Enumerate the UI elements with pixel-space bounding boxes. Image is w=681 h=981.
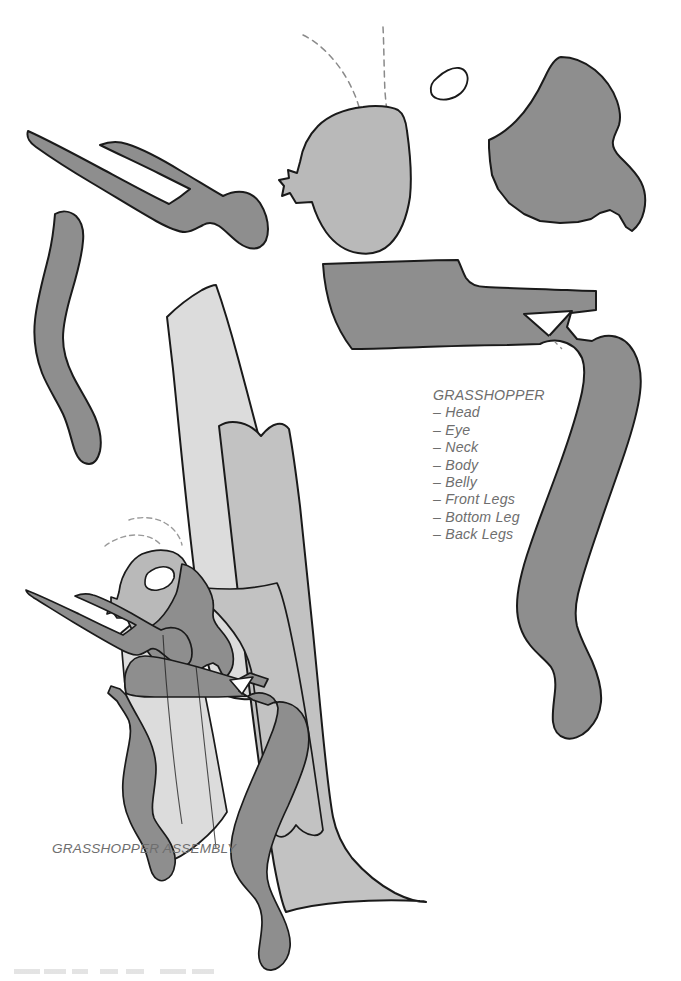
piece-head: [279, 106, 411, 254]
legend-item-eye: – Eye: [433, 422, 545, 439]
legend-item-belly: – Belly: [433, 474, 545, 491]
legend-title: GRASSHOPPER: [433, 387, 545, 404]
pattern-sheet: GRASSHOPPER – Head – Eye – Neck – Body –…: [0, 0, 681, 981]
piece-bottom-leg: [34, 212, 100, 464]
legend-item-bottom-leg: – Bottom Leg: [433, 509, 545, 526]
piece-eye: [431, 68, 468, 100]
antenna-left-icon: [303, 35, 362, 120]
assembly-antenna-left-icon: [105, 535, 161, 546]
assembly-caption: GRASSHOPPER ASSEMBLY: [52, 841, 236, 856]
legend-item-body: – Body: [433, 457, 545, 474]
assembly-antennae: [105, 518, 182, 546]
legend-item-front-legs: – Front Legs: [433, 491, 545, 508]
footer-edge-marking: [14, 969, 214, 974]
piece-neck: [489, 57, 645, 231]
grasshopper-pattern-illustration: [0, 0, 681, 981]
legend-item-neck: – Neck: [433, 439, 545, 456]
assembly-illustration: [26, 518, 323, 971]
legend-item-head: – Head: [433, 404, 545, 421]
legend-item-back-legs: – Back Legs: [433, 526, 545, 543]
parts-legend: GRASSHOPPER – Head – Eye – Neck – Body –…: [433, 387, 545, 544]
